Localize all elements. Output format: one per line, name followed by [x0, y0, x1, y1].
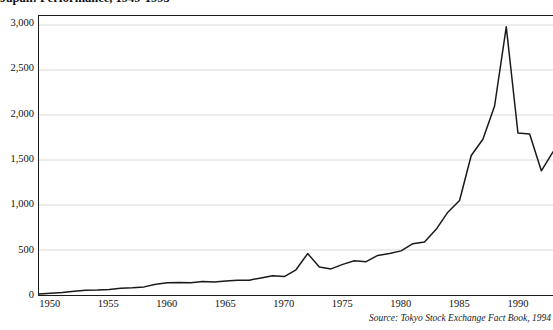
y-axis-tick-label: 3,000 [0, 17, 34, 28]
x-axis-tick-label: 1970 [262, 298, 306, 309]
x-axis-tick-label: 1960 [145, 298, 189, 309]
y-axis-tick-label: 500 [0, 244, 34, 255]
y-axis-tick-label: 2,000 [0, 108, 34, 119]
source-note: Source: Tokyo Stock Exchange Fact Book, … [369, 313, 551, 323]
x-axis-tick-label: 1980 [379, 298, 423, 309]
x-axis-tick-label: 1950 [28, 298, 72, 309]
x-axis-tick-label: 1990 [496, 298, 540, 309]
x-axis-tick-label: 1975 [320, 298, 364, 309]
gridlines-group [39, 25, 553, 250]
x-axis-tick-label: 1985 [437, 298, 481, 309]
page-title: Japan: Performance, 1949-1993 [0, 0, 400, 5]
plot-area [38, 15, 553, 296]
y-axis-tick-label: 1,000 [0, 198, 34, 209]
y-axis-labels: 05001,0001,5002,0002,5003,000 [0, 0, 34, 330]
x-axis-tick-label: 1955 [86, 298, 130, 309]
line-chart-svg [39, 16, 553, 295]
y-axis-tick-label: 1,500 [0, 153, 34, 164]
x-axis-tick-label: 1965 [203, 298, 247, 309]
chart-page: Japan: Performance, 1949-1993 05001,0001… [0, 0, 553, 330]
y-axis-tick-label: 2,500 [0, 62, 34, 73]
